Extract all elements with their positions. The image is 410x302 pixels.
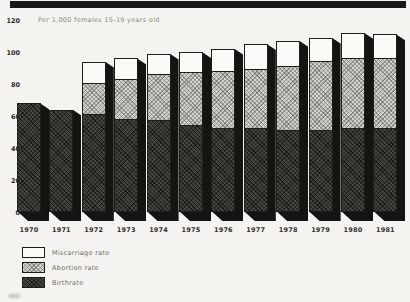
segment-abortion xyxy=(180,72,202,125)
bar-side-shadow xyxy=(396,34,405,212)
segment-miscarriage xyxy=(148,55,170,74)
bar-front-face xyxy=(276,41,300,212)
x-axis-year-label: 1979 xyxy=(304,226,338,234)
bar-base-pedestal xyxy=(276,211,308,221)
bar-1972 xyxy=(82,62,114,221)
x-axis-year-label: 1970 xyxy=(12,226,46,234)
segment-miscarriage xyxy=(83,63,105,84)
legend-label: Abortion rate xyxy=(52,264,99,272)
segment-birthrate xyxy=(50,111,72,211)
bar-base-pedestal xyxy=(211,211,243,221)
bar-front-face xyxy=(179,52,203,212)
bar-1971 xyxy=(49,110,81,221)
bar-1976 xyxy=(211,49,243,221)
segment-birthrate xyxy=(310,130,332,211)
bar-side-shadow xyxy=(234,49,243,212)
x-axis-year-label: 1981 xyxy=(368,226,402,234)
segment-birthrate xyxy=(342,128,364,211)
segment-birthrate xyxy=(374,128,396,211)
x-axis-year-label: 1978 xyxy=(271,226,305,234)
bar-side-shadow xyxy=(202,52,211,212)
segment-abortion xyxy=(115,79,137,119)
legend-item-birthrate: Birthrate xyxy=(22,275,110,290)
bar-side-shadow xyxy=(72,110,81,212)
segment-birthrate xyxy=(180,125,202,211)
bar-1978 xyxy=(276,41,308,221)
segment-abortion xyxy=(148,74,170,120)
bar-base-pedestal xyxy=(179,211,211,221)
bar-base-pedestal xyxy=(341,211,373,221)
bar-side-shadow xyxy=(299,41,308,212)
bar-front-face xyxy=(114,58,138,212)
bar-1979 xyxy=(309,38,341,221)
x-axis-year-label: 1974 xyxy=(142,226,176,234)
segment-birthrate xyxy=(18,104,40,211)
y-axis-tick-label: 100 xyxy=(0,49,20,57)
bar-base-pedestal xyxy=(114,211,146,221)
segment-birthrate xyxy=(245,128,267,211)
segment-miscarriage xyxy=(115,59,137,78)
bar-front-face xyxy=(309,38,333,212)
x-axis-year-label: 1972 xyxy=(77,226,111,234)
bar-1974 xyxy=(147,54,179,221)
segment-birthrate xyxy=(83,114,105,211)
legend-item-miscarriage: Miscarriage rate xyxy=(22,245,110,260)
bar-side-shadow xyxy=(364,33,373,212)
segment-miscarriage xyxy=(277,42,299,66)
bar-side-shadow xyxy=(332,38,341,212)
bar-side-shadow xyxy=(267,44,276,212)
bar-base-pedestal xyxy=(17,211,49,221)
segment-abortion xyxy=(212,71,234,129)
x-axis-year-label: 1977 xyxy=(239,226,273,234)
x-axis-year-label: 1976 xyxy=(206,226,240,234)
bar-front-face xyxy=(211,49,235,212)
bar-base-pedestal xyxy=(244,211,276,221)
bar-front-face xyxy=(244,44,268,212)
segment-birthrate xyxy=(212,128,234,211)
y-axis-tick-label: 80 xyxy=(0,81,20,89)
segment-birthrate xyxy=(115,119,137,211)
bar-front-face xyxy=(373,34,397,212)
segment-miscarriage xyxy=(342,34,364,58)
x-axis-year-label: 1971 xyxy=(44,226,78,234)
x-axis-year-label: 1980 xyxy=(336,226,370,234)
segment-miscarriage xyxy=(310,39,332,61)
bar-front-face xyxy=(82,62,106,212)
bar-1975 xyxy=(179,52,211,221)
scanned-chart-page: Per 1,000 females 15-19 years old 020406… xyxy=(0,0,410,302)
x-axis-year-label: 1975 xyxy=(174,226,208,234)
legend-label: Birthrate xyxy=(52,279,84,287)
segment-abortion xyxy=(83,83,105,113)
legend-item-abortion: Abortion rate xyxy=(22,260,110,275)
bar-side-shadow xyxy=(170,54,179,212)
bar-1977 xyxy=(244,44,276,221)
x-axis-year-label: 1973 xyxy=(109,226,143,234)
bar-base-pedestal xyxy=(373,211,405,221)
segment-miscarriage xyxy=(212,50,234,71)
bar-front-face xyxy=(341,33,365,212)
bar-1981 xyxy=(373,34,405,221)
segment-birthrate xyxy=(277,130,299,211)
bar-front-face xyxy=(17,103,41,212)
segment-abortion xyxy=(310,61,332,130)
bar-base-pedestal xyxy=(309,211,341,221)
bar-side-shadow xyxy=(137,58,146,212)
segment-miscarriage xyxy=(180,53,202,72)
birthrate-swatch-icon xyxy=(22,277,45,288)
miscarriage-swatch-icon xyxy=(22,247,45,258)
y-axis-tick-label: 120 xyxy=(0,17,20,25)
bar-side-shadow xyxy=(105,62,114,212)
bar-base-pedestal xyxy=(147,211,179,221)
segment-abortion xyxy=(245,69,267,128)
segment-abortion xyxy=(374,58,396,128)
segment-birthrate xyxy=(148,120,170,211)
bar-base-pedestal xyxy=(82,211,114,221)
bar-front-face xyxy=(49,110,73,212)
bar-side-shadow xyxy=(40,103,49,212)
bar-front-face xyxy=(147,54,171,212)
abortion-swatch-icon xyxy=(22,262,45,273)
bar-1970 xyxy=(17,103,49,221)
segment-abortion xyxy=(342,58,364,128)
bar-1973 xyxy=(114,58,146,221)
scan-artifact xyxy=(8,294,20,298)
